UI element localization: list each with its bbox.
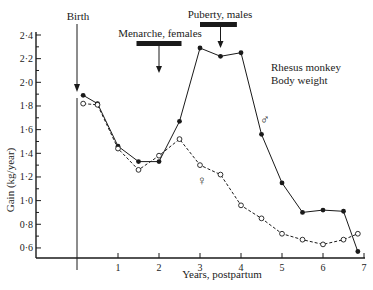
- male-data-point: [259, 132, 264, 137]
- male-data-point: [81, 93, 86, 98]
- male-data-point: [321, 208, 326, 213]
- male-data-point: [157, 159, 162, 164]
- menarche-arrow-head: [156, 66, 162, 73]
- annotations: [74, 22, 237, 270]
- male-symbol: ♂: [260, 112, 270, 127]
- female-data-point: [218, 172, 223, 177]
- y-tick-label: 1·4: [20, 148, 33, 159]
- female-data-point: [239, 203, 244, 208]
- female-symbol: ♀: [197, 173, 207, 188]
- female-data-point: [321, 242, 326, 247]
- female-data-point: [116, 146, 121, 151]
- female-data-point: [157, 153, 162, 158]
- y-tick-label: 1·6: [20, 124, 33, 135]
- annotation-puberty: Puberty, males: [188, 8, 253, 20]
- y-tick-label: 0·6: [20, 242, 33, 253]
- birth-arrow-head: [74, 84, 80, 92]
- growth-chart: 0·60·81·01·21·41·61·82·02·22·41234567 Ga…: [0, 0, 373, 290]
- male-data-point: [136, 159, 141, 164]
- chart-title-line-1: Rhesus monkey: [271, 61, 341, 73]
- y-tick-label: 1·0: [20, 195, 33, 206]
- y-tick-label: 2·2: [20, 53, 33, 64]
- y-tick-label: 0·8: [20, 219, 33, 230]
- y-axis-label: Gain (kg/year): [4, 147, 17, 212]
- puberty-bar: [200, 22, 237, 27]
- puberty-arrow-head: [218, 41, 224, 48]
- female-data-point: [81, 101, 86, 106]
- female-data-point: [198, 163, 203, 168]
- male-data-point: [218, 54, 223, 59]
- y-tick-label: 2·0: [20, 77, 33, 88]
- annotation-birth: Birth: [67, 10, 90, 22]
- x-tick-label: 6: [321, 262, 326, 273]
- x-tick-label: 7: [362, 262, 367, 273]
- male-data-point: [341, 209, 346, 214]
- male-data-point: [177, 119, 182, 124]
- male-data-point: [300, 210, 305, 215]
- female-data-point: [95, 102, 100, 107]
- female-data-point: [136, 167, 141, 172]
- chart-title-line-2: Body weight: [271, 74, 328, 86]
- female-data-point: [259, 216, 264, 221]
- y-tick-label: 1·2: [20, 171, 33, 182]
- male-data-point: [198, 46, 203, 51]
- x-tick-label: 5: [280, 262, 285, 273]
- female-data-point: [280, 231, 285, 236]
- x-tick-label: 2: [157, 262, 162, 273]
- female-data-point: [341, 237, 346, 242]
- male-data-point: [280, 180, 285, 185]
- annotation-menarche: Menarche, females: [118, 27, 202, 39]
- y-tick-label: 2·4: [20, 30, 33, 41]
- y-tick-label: 1·8: [20, 100, 33, 111]
- male-data-point: [239, 50, 244, 55]
- female-data-point: [177, 137, 182, 142]
- female-data-point: [355, 231, 360, 236]
- menarche-bar: [137, 41, 182, 46]
- x-tick-label: 1: [116, 262, 121, 273]
- female-data-point: [300, 237, 305, 242]
- x-axis-label: Years, postpartum: [182, 268, 262, 280]
- male-data-point: [355, 249, 360, 254]
